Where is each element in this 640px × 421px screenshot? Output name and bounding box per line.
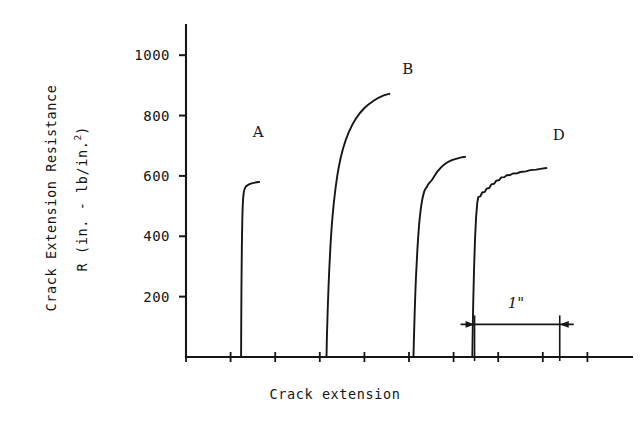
curve-label-d: D [553, 126, 565, 144]
x-axis-title: Crack extension [180, 386, 490, 402]
y-axis-tick-labels: 2004006008001000 [98, 0, 170, 421]
y-axis-units-exponent: 2 [72, 135, 83, 141]
y-axis-title-line2: R (in. - lb/in.2) [72, 49, 90, 349]
scale-bar-label: 1" [508, 294, 524, 312]
y-axis-tick-label: 1000 [98, 47, 170, 63]
y-axis-units-prefix: R (in. - lb/in. [74, 141, 90, 272]
scale-bar [461, 315, 574, 361]
plot-area [0, 0, 640, 421]
curve-label-a: A [253, 123, 264, 141]
y-axis-units-suffix: ) [74, 126, 90, 135]
y-axis-tick-label: 200 [98, 289, 170, 305]
y-axis-tick-label: 800 [98, 108, 170, 124]
y-axis-tick-label: 600 [98, 168, 170, 184]
y-axis-title-line1: Crack Extension Resistance [43, 48, 59, 348]
curve-label-b: B [402, 60, 413, 78]
y-axis-tick-label: 400 [98, 228, 170, 244]
curve-c [413, 157, 465, 357]
curve-d [472, 168, 546, 357]
crack-resistance-figure: Crack Extension Resistance R (in. - lb/i… [0, 0, 640, 421]
data-curves [241, 94, 546, 357]
scale-bar-arrowhead [560, 321, 569, 328]
curve-a [241, 182, 259, 357]
curve-b [326, 94, 389, 357]
